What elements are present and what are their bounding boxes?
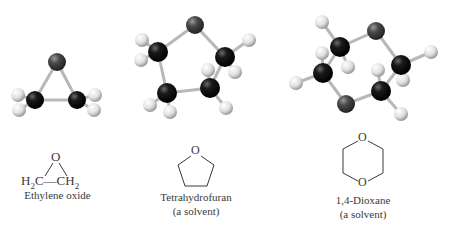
formula-bond: — xyxy=(44,173,57,188)
dioxane-oxygen-top: O xyxy=(358,130,367,145)
ethylene-oxide-label: Ethylene oxide xyxy=(10,189,105,201)
ethylene-oxide-atoms xyxy=(11,53,102,117)
formula-ch: CH xyxy=(57,173,75,188)
dioxane-label: 1,4-Dioxane xyxy=(318,194,408,206)
dioxane-oxygen-bottom: O xyxy=(358,175,367,190)
formula-c: C xyxy=(35,173,44,188)
tetrahydrofuran-structure xyxy=(178,156,214,186)
ethylene-oxide-oxygen: O xyxy=(51,149,60,165)
ethylene-oxide-formula: H2C—CH2 xyxy=(21,173,79,191)
formula-h: H xyxy=(21,173,30,188)
thf-label: Tetrahydrofuran xyxy=(146,191,246,203)
dioxane-atoms xyxy=(289,15,438,121)
tetrahydrofuran-atoms xyxy=(134,16,256,119)
thf-oxygen: O xyxy=(191,143,200,158)
thf-subtitle: (a solvent) xyxy=(146,205,246,217)
dioxane-subtitle: (a solvent) xyxy=(318,208,408,220)
